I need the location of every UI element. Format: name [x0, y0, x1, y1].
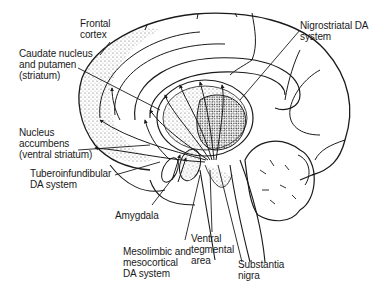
- label-substantia-nigra: Substantia nigra: [238, 259, 284, 281]
- label-mesolimbic-mesocortical: Mesolimbic and mesocortical DA system: [123, 246, 191, 279]
- label-nucleus-accumbens: Nucleus accumbens (ventral striatum): [19, 127, 92, 160]
- label-tuberoinfundibular: Tuberoinfundibular DA system: [30, 168, 111, 190]
- label-amygdala: Amygdala: [115, 210, 159, 221]
- brain-dopamine-pathways-diagram: Frontal cortex Caudate nucleus and putam…: [0, 0, 380, 292]
- label-frontal-cortex: Frontal cortex: [80, 18, 110, 40]
- label-caudate-putamen: Caudate nucleus and putamen (striatum): [19, 48, 93, 81]
- label-nigrostriatal: Nigrostriatal DA system: [300, 20, 368, 42]
- label-ventral-tegmental-area: Ventral tegmental area: [191, 233, 234, 266]
